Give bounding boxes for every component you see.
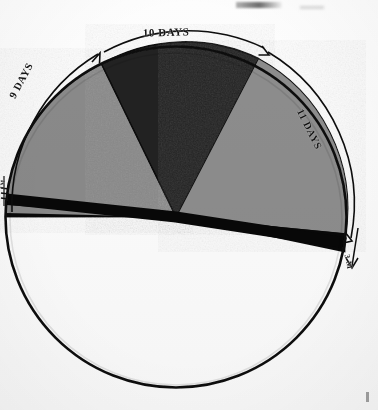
arc-label-10-days: 10 DAYS [143,25,190,38]
pie-chart[interactable] [0,0,378,410]
arrow-head-10-days-icon [259,46,270,55]
edge-label-left-small: 1M [0,179,6,189]
chart-page: 10 DAYS 9 DAYS 11 DAYS 1M 3 M [0,0,378,410]
